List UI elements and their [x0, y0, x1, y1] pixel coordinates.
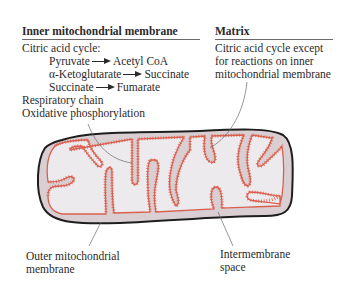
matrix-heading-rule [215, 39, 333, 40]
inner-membrane [47, 135, 283, 214]
arrow-right-icon [96, 84, 115, 92]
inner-membrane-heading-rule [22, 39, 200, 40]
inner-membrane-heading: Inner mitochondrial membrane [22, 25, 178, 38]
reaction-to: Acetyl CoA [113, 55, 168, 67]
matrix-heading: Matrix [215, 25, 249, 38]
reaction-from: Succinate [22, 81, 94, 93]
leader-line-outer-membrane [89, 222, 101, 246]
citric-acid-cycle-label: Citric acid cycle: [22, 42, 101, 55]
arrow-right-icon [92, 58, 111, 66]
matrix-description-line: Citric acid cycle except [215, 42, 323, 55]
reaction-row: SuccinateFumarate [22, 81, 160, 94]
intermembrane-space-label-line: space [220, 261, 246, 274]
reaction-row: α-KetoglutarateSuccinate [22, 68, 189, 81]
matrix-description-line: for reactions on inner [215, 55, 314, 68]
reaction-to: Succinate [144, 68, 189, 80]
reaction-from: α-Ketoglutarate [22, 68, 121, 80]
reaction-from: Pyruvate [22, 55, 90, 67]
reaction-row: PyruvateAcetyl CoA [22, 55, 168, 68]
intermembrane-space-label-line: Intermembrane [220, 248, 290, 261]
respiratory-chain-label: Respiratory chain [22, 94, 103, 107]
oxidative-phosphorylation-label: Oxidative phosphorylation [22, 107, 145, 120]
outer-membrane-label-line: Outer mitochondrial [26, 250, 120, 263]
arrow-right-icon [123, 71, 142, 79]
outer-membrane-label-line: membrane [26, 263, 75, 276]
reaction-to: Fumarate [117, 81, 160, 93]
matrix-description-line: mitochondrial membrane [215, 68, 331, 81]
